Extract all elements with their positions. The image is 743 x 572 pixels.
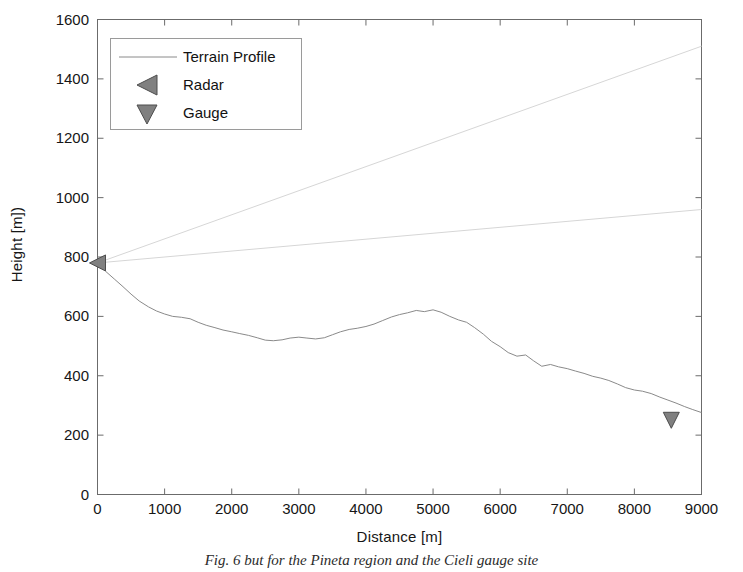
figure-caption: Fig. 6 but for the Pineta region and the… bbox=[0, 552, 743, 572]
x-tick-label: 8000 bbox=[604, 501, 664, 516]
x-tick-label: 3000 bbox=[269, 501, 329, 516]
x-tick-label: 4000 bbox=[336, 501, 396, 516]
y-tick-label: 800 bbox=[33, 249, 89, 264]
y-tick-label: 1000 bbox=[33, 190, 89, 205]
terrain-profile-figure: 02004006008001000120014001600 0100020003… bbox=[0, 0, 743, 572]
y-tick-label: 600 bbox=[33, 308, 89, 323]
x-axis-tick-labels: 0100020003000400050006000700080009000 bbox=[0, 501, 743, 521]
series-line bbox=[98, 210, 702, 263]
y-tick-label: 1600 bbox=[33, 12, 89, 27]
x-tick-label: 2000 bbox=[202, 501, 262, 516]
legend-label-radar: Radar bbox=[183, 75, 224, 95]
chart-legend: Terrain Profile Radar Gauge bbox=[110, 38, 302, 130]
legend-entry-radar: Radar bbox=[111, 71, 303, 99]
triangle-left-icon bbox=[117, 71, 179, 99]
legend-label-gauge: Gauge bbox=[183, 103, 228, 123]
x-tick-label: 7000 bbox=[537, 501, 597, 516]
x-tick-label: 0 bbox=[68, 501, 128, 516]
y-tick-label: 400 bbox=[33, 368, 89, 383]
legend-entry-gauge: Gauge bbox=[111, 99, 303, 127]
line-swatch-icon bbox=[117, 43, 179, 71]
marker-gauge bbox=[663, 412, 679, 428]
series-line bbox=[98, 263, 702, 413]
y-tick-label: 1400 bbox=[33, 71, 89, 86]
x-tick-label: 1000 bbox=[135, 501, 195, 516]
y-tick-label: 0 bbox=[33, 487, 89, 502]
y-axis-title: Height [m]) bbox=[8, 165, 25, 325]
y-tick-label: 200 bbox=[33, 427, 89, 442]
x-axis-title: Distance [m] bbox=[97, 528, 702, 545]
x-tick-label: 9000 bbox=[672, 501, 732, 516]
x-tick-label: 5000 bbox=[403, 501, 463, 516]
triangle-down-icon bbox=[117, 99, 179, 127]
legend-entry-terrain-profile: Terrain Profile bbox=[111, 43, 303, 71]
x-tick-label: 6000 bbox=[470, 501, 530, 516]
data-marker-layer bbox=[90, 255, 680, 428]
legend-label-terrain-profile: Terrain Profile bbox=[183, 47, 276, 67]
y-tick-label: 1200 bbox=[33, 130, 89, 145]
y-axis-tick-labels: 02004006008001000120014001600 bbox=[33, 0, 89, 572]
